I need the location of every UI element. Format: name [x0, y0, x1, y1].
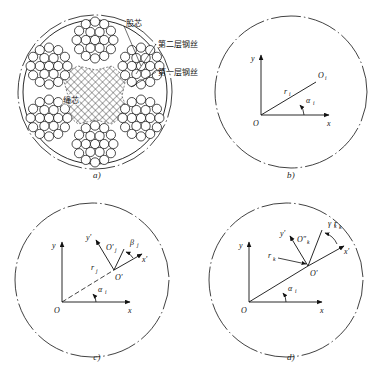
panel-c-caption: c) — [0, 352, 194, 362]
local-x-axis-label: x′ — [343, 247, 350, 256]
radius-label: r — [284, 87, 288, 96]
strand-core-wire — [44, 113, 53, 122]
x-axis-label: x — [319, 306, 324, 315]
local-y-axis-label: y′ — [85, 233, 92, 242]
callout-strand-core: 股芯 — [126, 17, 142, 28]
origin-label: O — [253, 119, 259, 128]
strand — [72, 17, 118, 63]
panel-a-caption: a) — [0, 170, 194, 180]
radius-vector-global — [249, 266, 308, 302]
radius-label-sub: i — [289, 91, 291, 97]
y-axis-label: y — [250, 54, 255, 63]
callout-second-layer-wire: 第二层钢丝 — [158, 38, 198, 49]
local-origin-label: O′ — [115, 273, 123, 282]
origin-label: O — [241, 306, 247, 315]
local-y-axis-label: y′ — [279, 229, 286, 238]
strand-core-wire — [44, 61, 53, 70]
inner-radius-label: r — [268, 251, 272, 260]
radius-vector-global — [62, 270, 114, 302]
rope-core-label: 绳芯 — [62, 94, 80, 105]
angle-local-label-sub: j — [136, 242, 139, 248]
angle-local-arc — [126, 252, 133, 258]
origin-label: O — [54, 306, 60, 315]
inner-radius-vector — [278, 258, 306, 264]
angle-global-label: α — [288, 284, 293, 293]
panel-a-drawing — [0, 0, 194, 192]
point-label: O′ — [106, 243, 114, 252]
angle-global-arc — [93, 294, 96, 302]
panel-b-drawing: O x y O i r i α i — [194, 0, 388, 192]
local-radius-vector — [308, 230, 322, 266]
angle-label: α — [306, 96, 311, 105]
strand-core-wire — [90, 139, 99, 148]
point-label: O — [318, 71, 324, 80]
wire-rope-figure: 股芯 第二层钢丝 第一层钢丝 绳芯 a) O x y O i r i α — [0, 0, 388, 384]
angle-local-label: γ — [328, 219, 332, 228]
radius-label: r — [91, 263, 95, 272]
angle-arc — [300, 105, 304, 115]
angle-global-label-sub: i — [295, 288, 297, 294]
boundary-circle — [215, 16, 367, 168]
panel-a-cross-section: 股芯 第二层钢丝 第一层钢丝 绳芯 a) — [0, 0, 194, 192]
x-axis-label: x — [326, 119, 331, 128]
point-label-sub: i — [325, 75, 327, 81]
point-label-sub: k — [307, 239, 310, 245]
angle-local-arc — [325, 233, 337, 244]
panel-d-caption: d) — [194, 352, 388, 362]
angle-global-label-sub: i — [105, 289, 107, 295]
point-label: O″ — [297, 235, 307, 244]
angle-label-sub: i — [313, 100, 315, 106]
radius-label-sub: j — [95, 268, 98, 274]
panel-b-caption: b) — [194, 170, 388, 180]
angle-local-label: β — [129, 238, 134, 247]
y-axis-label: y — [51, 241, 56, 250]
strand-core-wire — [136, 113, 145, 122]
strand-core-wire — [90, 35, 99, 44]
y-axis-label: y — [238, 241, 243, 250]
inner-radius-label-sub: k — [273, 256, 276, 262]
local-origin-label: O′ — [310, 269, 318, 278]
angle-global-label: α — [98, 285, 103, 294]
panel-b-coordinates: O x y O i r i α i b) — [194, 0, 388, 192]
strand — [72, 121, 118, 167]
local-x-axis — [308, 246, 344, 266]
x-axis-label: x — [127, 306, 132, 315]
angle-global-arc — [283, 293, 286, 302]
boundary-circle — [15, 203, 169, 357]
strand — [118, 95, 164, 141]
panel-c-coordinates: O x y x′ y′ O′ O′ j r j α i β j c) — [0, 192, 194, 384]
point-label-sub: j — [114, 247, 117, 253]
panel-d-coordinates: O x y x′ y′ O′ O″ k r k r k α i γ k d) — [194, 192, 388, 384]
local-x-axis-label: x′ — [141, 255, 148, 264]
callout-first-layer-wire: 第一层钢丝 — [158, 66, 198, 77]
